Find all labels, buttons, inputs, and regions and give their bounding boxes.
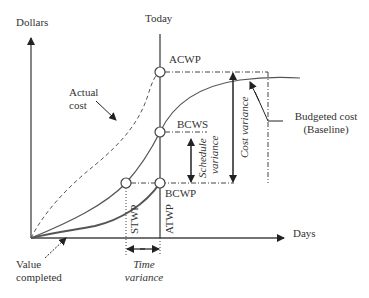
budgeted-cost-label: Budgeted cost (Baseline) [288,110,364,136]
bcws-label: BCWS [177,118,208,131]
schedule-variance-label-line2: variance [208,136,220,178]
earned-value-diagram [0,0,369,298]
budgeted-cost-label-line1: Budgeted cost [288,110,364,123]
bcwp-label: BCWP [165,187,196,200]
actual-cost-label-line2: cost [69,99,98,112]
value-completed-label-line1: Value [16,258,62,271]
bcws-point [155,127,165,137]
x-axis-label: Days [293,227,316,240]
schedule-variance-label: Schedule variance [196,136,220,178]
y-axis-label: Dollars [16,16,48,29]
cost-variance-label: Cost variance [238,97,250,158]
atwp-label: ATWP [163,204,175,234]
stwp-point [121,178,131,188]
acwp-point [155,67,165,77]
bcwp-point [155,178,165,188]
stwp-label: STWP [128,205,140,234]
actual-cost-label: Actual cost [69,86,98,112]
time-variance-label: Time variance [122,258,166,284]
time-variance-label-line2: variance [122,271,166,284]
budgeted-cost-pointer [255,92,283,121]
time-variance-label-line1: Time [122,258,166,271]
value-completed-label-line2: completed [16,271,62,284]
today-label: Today [145,12,172,25]
acwp-label: ACWP [169,53,201,66]
actual-cost-pointer [96,101,116,120]
actual-cost-label-line1: Actual [69,86,98,99]
budgeted-cost-pointer-head [250,82,259,101]
value-completed-pointer [45,238,66,258]
budgeted-cost-label-line2: (Baseline) [288,123,364,136]
schedule-variance-label-line1: Schedule [196,136,208,178]
value-completed-label: Value completed [16,258,62,284]
